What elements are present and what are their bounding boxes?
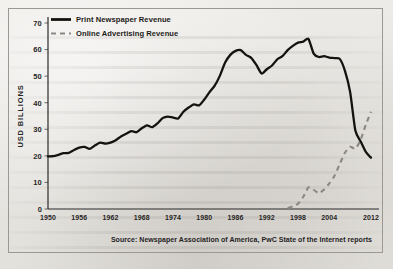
x-tick-label-2012: 2012: [363, 214, 379, 221]
y-tick-label-70: 70: [33, 19, 42, 28]
y-tick-label-10: 10: [33, 178, 42, 187]
series-line-print-newspaper-revenue: [48, 39, 371, 158]
x-tick-label-1950: 1950: [40, 214, 56, 221]
x-axis-tick-labels: 1950195619621968197419801986199219982004…: [40, 214, 379, 221]
chart-figure: 706050403020100 195019561962196819741980…: [8, 8, 383, 253]
x-tick-label-2004: 2004: [321, 214, 337, 221]
x-tick-label-1998: 1998: [290, 214, 306, 221]
x-tick-label-1992: 1992: [259, 214, 275, 221]
x-tick-label-1974: 1974: [165, 214, 181, 221]
x-tick-label-1980: 1980: [196, 214, 212, 221]
y-tick-label-50: 50: [33, 72, 42, 81]
chart-legend: Print Newspaper Revenue Online Advertisi…: [51, 15, 178, 38]
x-tick-label-1968: 1968: [134, 214, 150, 221]
source-note: Source: Newspaper Association of America…: [111, 236, 372, 244]
x-tick-label-1986: 1986: [228, 214, 244, 221]
y-axis-tick-labels: 706050403020100: [33, 19, 42, 214]
y-tick-label-60: 60: [33, 45, 42, 54]
y-tick-label-40: 40: [33, 99, 42, 108]
y-tick-label-20: 20: [33, 152, 42, 161]
x-tick-label-1962: 1962: [103, 214, 119, 221]
y-tick-label-30: 30: [33, 125, 42, 134]
x-tick-label-1956: 1956: [71, 214, 87, 221]
y-tick-label-0: 0: [38, 205, 42, 214]
line-chart: 706050403020100 195019561962196819741980…: [9, 9, 382, 252]
series-line-online-advertising-revenue: [288, 112, 371, 208]
legend-label-online-advertising-revenue: Online Advertising Revenue: [76, 29, 178, 38]
y-axis-title: USD BILLIONS: [16, 84, 25, 147]
legend-label-print-newspaper-revenue: Print Newspaper Revenue: [76, 15, 171, 24]
